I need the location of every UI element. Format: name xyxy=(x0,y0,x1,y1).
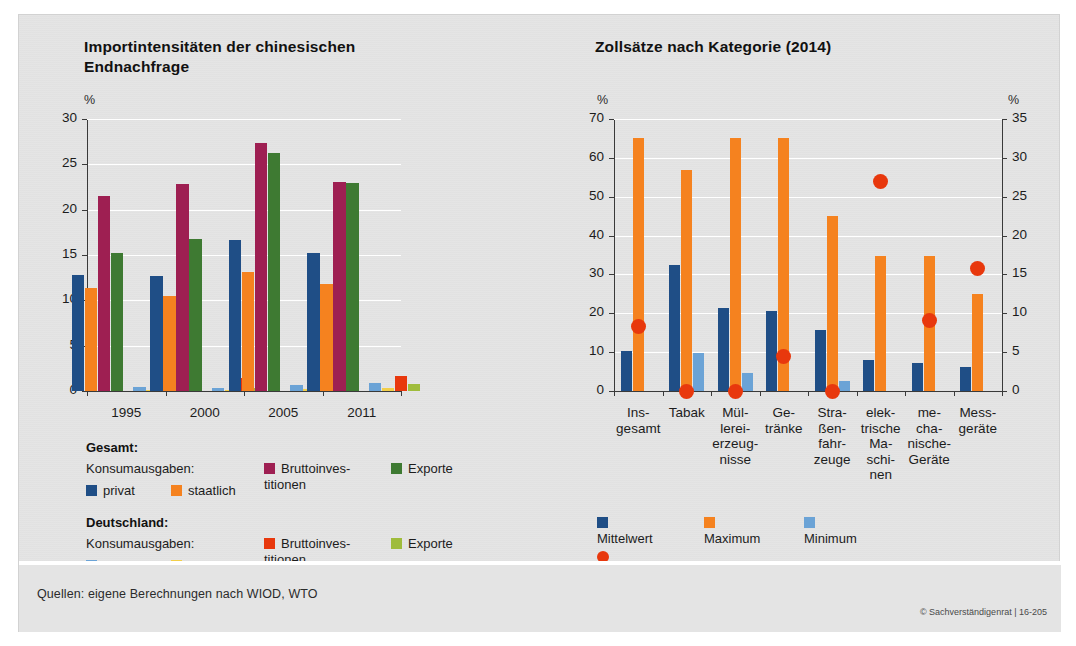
y-axis-label: 20 xyxy=(39,201,77,216)
bar-0-s1 xyxy=(633,138,644,391)
y-axis-label-left: 20 xyxy=(566,304,604,319)
x-tick xyxy=(905,391,906,396)
y-axis-label-right: 30 xyxy=(1012,149,1050,164)
bar-1-s1 xyxy=(681,170,692,391)
bar-4-s0 xyxy=(815,330,826,391)
y-axis-label-right: 5 xyxy=(1012,343,1050,358)
right-chart-legend: MittelwertMaximumMinimumzollfreier Antei… xyxy=(19,15,479,95)
bar-5-s0 xyxy=(863,360,874,391)
x-axis-label: 2005 xyxy=(244,405,323,421)
legend-swatch-icon xyxy=(171,485,182,496)
legend-gesamt-konsum-label: Konsumausgaben: xyxy=(86,461,194,476)
gridline xyxy=(614,197,1002,198)
legend-label: Exporte xyxy=(408,536,453,551)
legend-swatch-icon xyxy=(391,463,402,474)
legend-group-gesamt-heading: Gesamt: xyxy=(86,440,138,455)
y-axis-label-left: 70 xyxy=(566,110,604,125)
y-axis-label-right: 15 xyxy=(1012,265,1050,280)
legend-item-gesamt-bruttoinvestitionen: Bruttoinves- titionen xyxy=(264,461,350,493)
y-axis-label-left: 40 xyxy=(566,227,604,242)
y-axis-label-right: 25 xyxy=(1012,188,1050,203)
bar-2011-s5 xyxy=(382,388,395,391)
y-axis-label-left: 30 xyxy=(566,265,604,280)
legend-swatch-icon xyxy=(804,517,815,528)
scatter-dot-2 xyxy=(728,384,743,399)
gridline xyxy=(614,236,1002,237)
y-axis-line-right xyxy=(1002,119,1003,391)
right-chart-plot-area: 01020304050607005101520253035Ins- gesamt… xyxy=(614,119,1002,391)
legend-group-deutschland-heading: Deutschland: xyxy=(86,515,168,530)
legend-swatch-icon xyxy=(597,517,608,528)
bar-2011-s4 xyxy=(369,383,382,391)
legend-swatch-icon xyxy=(264,463,275,474)
legend-label: Maximum xyxy=(704,531,760,546)
x-tick xyxy=(711,391,712,396)
x-tick xyxy=(954,391,955,396)
x-tick xyxy=(857,391,858,396)
bar-2011-s6 xyxy=(395,376,408,391)
bar-2011-s0 xyxy=(307,253,320,391)
bar-7-s0 xyxy=(960,367,971,391)
bar-2000-s0 xyxy=(150,276,163,391)
y-axis-label-right: 0 xyxy=(1012,382,1050,397)
legend-swatch-icon xyxy=(264,538,275,549)
bar-7-s1 xyxy=(972,294,983,391)
figure-page: Importintensitäten der chinesischenEndna… xyxy=(0,0,1076,646)
bar-2-s0 xyxy=(718,308,729,391)
bar-4-s2 xyxy=(839,381,850,391)
y-axis-line-left xyxy=(614,119,615,391)
scatter-dot-4 xyxy=(825,384,840,399)
legend-label: staatlich xyxy=(188,483,236,498)
right-chart-unit-label-right: % xyxy=(1008,93,1019,107)
y-axis-label-left: 60 xyxy=(566,149,604,164)
y-axis-label-left: 0 xyxy=(566,382,604,397)
scatter-dot-3 xyxy=(776,349,791,364)
bar-4-s1 xyxy=(827,216,838,391)
bar-5-s1 xyxy=(875,256,886,391)
plot-top-border xyxy=(614,119,1002,120)
scatter-dot-0 xyxy=(631,319,646,334)
legend-item-deutschland-exporte: Exporte xyxy=(391,536,453,552)
bar-1995-s1 xyxy=(85,288,98,391)
legend-item-mittelwert: Mittelwert xyxy=(597,515,653,547)
bar-6-s0 xyxy=(912,363,923,391)
x-tick xyxy=(663,391,664,396)
y-axis-label-right: 35 xyxy=(1012,110,1050,125)
legend-swatch-icon xyxy=(391,538,402,549)
x-tick xyxy=(760,391,761,396)
bar-1-s0 xyxy=(669,265,680,391)
bar-2011-s2 xyxy=(333,182,346,391)
gridline xyxy=(614,158,1002,159)
legend-label: Mittelwert xyxy=(597,531,653,546)
bar-2011-s7 xyxy=(408,384,421,391)
copyright-note: © Sachverständigenrat | 16-205 xyxy=(920,607,1047,617)
legend-label: Minimum xyxy=(804,531,857,546)
y-axis-label: 15 xyxy=(39,246,77,261)
legend-label: privat xyxy=(103,483,135,498)
source-note: Quellen: eigene Berechnungen nach WIOD, … xyxy=(37,587,318,601)
legend-item-minimum: Minimum xyxy=(804,515,857,547)
x-tick xyxy=(166,391,167,396)
scatter-dot-6 xyxy=(922,313,937,328)
y-axis-label-right: 20 xyxy=(1012,227,1050,242)
x-tick xyxy=(244,391,245,396)
legend-item-maximum: Maximum xyxy=(704,515,760,547)
bar-2000-s4 xyxy=(212,388,225,391)
x-tick xyxy=(323,391,324,396)
bar-1995-s3 xyxy=(111,253,124,391)
legend-item-gesamt-staatlich: staatlich xyxy=(171,483,236,499)
x-tick xyxy=(401,391,402,396)
y-axis-label-left: 10 xyxy=(566,343,604,358)
bar-1-s2 xyxy=(693,353,704,391)
bar-2011-s3 xyxy=(346,183,359,391)
x-tick xyxy=(1002,391,1003,396)
bar-2011-s1 xyxy=(320,284,333,391)
bar-2000-s1 xyxy=(163,296,176,391)
legend-deutschland-konsum-label: Konsumausgaben: xyxy=(86,536,194,551)
figure-panel: Importintensitäten der chinesischenEndna… xyxy=(18,14,1060,632)
scatter-dot-5 xyxy=(873,174,888,189)
bar-1995-s0 xyxy=(72,275,85,391)
bar-3-s0 xyxy=(766,311,777,391)
legend-swatch-icon xyxy=(704,517,715,528)
legend-label: Bruttoinves- titionen xyxy=(264,461,350,492)
